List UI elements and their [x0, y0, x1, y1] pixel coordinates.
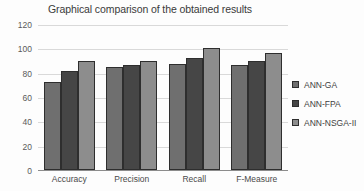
legend-label: ANN-NSGA-II: [304, 118, 356, 128]
x-axis-line: [38, 170, 288, 171]
bar[interactable]: [186, 58, 203, 170]
bar-group: [44, 25, 95, 170]
bar-chart: Graphical comparison of the obtained res…: [0, 0, 364, 191]
bar[interactable]: [123, 65, 140, 170]
bar[interactable]: [61, 71, 78, 170]
bar-group: [169, 25, 220, 170]
chart-title: Graphical comparison of the obtained res…: [0, 3, 300, 15]
x-tick-label: F-Measure: [226, 174, 289, 184]
bar[interactable]: [78, 61, 95, 171]
bar[interactable]: [106, 67, 123, 170]
legend-item[interactable]: ANN-FPA: [292, 95, 364, 112]
x-tick-label: Accuracy: [38, 174, 101, 184]
legend-swatch-icon: [292, 81, 299, 88]
bar[interactable]: [265, 53, 282, 170]
bar[interactable]: [231, 65, 248, 170]
legend-swatch-icon: [292, 119, 299, 126]
legend-label: ANN-FPA: [304, 99, 341, 109]
bar[interactable]: [44, 82, 61, 170]
y-tick-label: 20: [2, 143, 32, 152]
legend-item[interactable]: ANN-NSGA-II: [292, 114, 364, 131]
x-tick-label: Recall: [163, 174, 226, 184]
x-tick-label: Precision: [101, 174, 164, 184]
bar-group: [231, 25, 282, 170]
y-tick-label: 40: [2, 118, 32, 127]
y-axis: 020406080100120: [0, 25, 36, 171]
bar[interactable]: [169, 64, 186, 170]
bar[interactable]: [248, 61, 265, 171]
bar[interactable]: [140, 61, 157, 170]
y-tick-label: 120: [2, 21, 32, 30]
legend-swatch-icon: [292, 100, 299, 107]
legend-label: ANN-GA: [304, 80, 337, 90]
y-tick-label: 0: [2, 167, 32, 176]
legend-item[interactable]: ANN-GA: [292, 76, 364, 93]
bar[interactable]: [203, 48, 220, 170]
plot-area: [38, 25, 288, 171]
bar-group: [106, 25, 157, 170]
y-tick-label: 100: [2, 45, 32, 54]
legend: ANN-GAANN-FPAANN-NSGA-II: [292, 76, 364, 133]
y-tick-label: 80: [2, 70, 32, 79]
y-tick-label: 60: [2, 94, 32, 103]
